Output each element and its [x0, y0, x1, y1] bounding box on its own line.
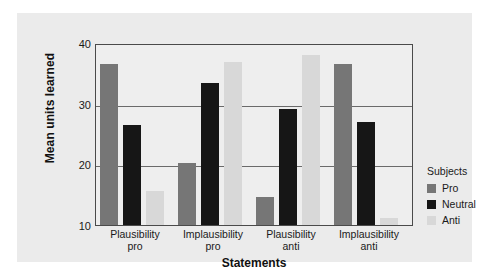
x-group-implausibility-anti: Implausibility anti — [321, 228, 417, 252]
bar-implausibility-anti-neutral — [357, 122, 375, 225]
legend: Subjects Pro Neutral Anti — [427, 165, 491, 230]
legend-title: Subjects — [427, 165, 491, 177]
legend-label-anti: Anti — [442, 214, 460, 226]
x-group-label-line1: Plausibility — [110, 228, 160, 240]
x-group-label-line2: anti — [321, 240, 417, 252]
y-tick-20: 20 — [65, 160, 91, 171]
legend-item-anti: Anti — [427, 214, 491, 226]
y-tick-40: 40 — [65, 39, 91, 50]
x-group-label-line1: Plausibility — [266, 228, 316, 240]
y-axis-title: Mean units learned — [43, 28, 57, 188]
legend-swatch-anti-icon — [427, 216, 436, 225]
x-axis-group-labels: Plausibility pro Implausibility pro Plau… — [95, 228, 413, 258]
bar-implausibility-anti-pro — [334, 64, 352, 225]
figure-panel: 40 30 20 10 Mean units learned — [17, 13, 472, 262]
y-axis-ticks: 40 30 20 10 — [61, 44, 91, 226]
bar-implausibility-anti-anti — [380, 218, 398, 225]
bar-plausibility-anti-anti — [302, 55, 320, 225]
x-group-label-line1: Implausibility — [339, 228, 399, 240]
bar-plausibility-pro-pro — [100, 64, 118, 225]
bar-plausibility-anti-neutral — [279, 109, 297, 225]
legend-label-neutral: Neutral — [442, 198, 476, 210]
x-axis-title: Statements — [95, 256, 413, 270]
legend-label-pro: Pro — [442, 182, 458, 194]
bar-implausibility-pro-neutral — [201, 83, 219, 225]
plot-area — [95, 44, 413, 226]
legend-item-neutral: Neutral — [427, 198, 491, 210]
bar-implausibility-pro-pro — [178, 163, 196, 225]
y-tick-30: 30 — [65, 100, 91, 111]
bar-plausibility-pro-neutral — [123, 125, 141, 225]
y-tick-10: 10 — [65, 221, 91, 232]
legend-item-pro: Pro — [427, 182, 491, 194]
bar-plausibility-anti-pro — [256, 197, 274, 225]
bar-implausibility-pro-anti — [224, 62, 242, 225]
legend-swatch-neutral-icon — [427, 200, 436, 209]
bar-series-layer — [96, 45, 412, 225]
x-group-label-line1: Implausibility — [183, 228, 243, 240]
legend-swatch-pro-icon — [427, 184, 436, 193]
bar-plausibility-pro-anti — [146, 191, 164, 225]
chart-figure: 40 30 20 10 Mean units learned — [0, 0, 491, 275]
